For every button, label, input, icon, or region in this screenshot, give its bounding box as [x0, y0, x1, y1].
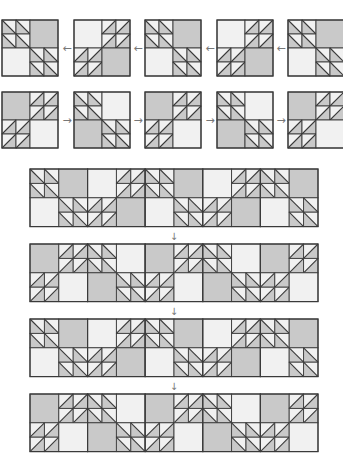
left-arrow-icon: ←	[133, 42, 142, 55]
gray-square	[30, 394, 59, 423]
right-arrow-icon: →	[62, 114, 71, 127]
quilt-block-C	[260, 394, 318, 452]
light-square	[260, 198, 289, 227]
gray-square	[2, 92, 30, 120]
quilt-block-C	[30, 394, 88, 452]
light-square	[232, 244, 261, 273]
quilt-block-A	[30, 169, 88, 227]
quilt-block-B	[203, 319, 261, 377]
gray-square	[145, 92, 173, 120]
quilt-strip-1	[30, 169, 318, 227]
block-row-2: →→→→	[2, 92, 343, 148]
light-square	[245, 92, 273, 120]
light-square	[203, 319, 232, 348]
light-square	[174, 423, 203, 452]
quilt-block-A	[30, 319, 88, 377]
light-square	[74, 20, 102, 48]
quilt-block-D	[203, 244, 261, 302]
gray-square	[232, 198, 261, 227]
gray-square	[74, 120, 102, 148]
quilt-block-C	[2, 92, 58, 148]
left-arrow-icon: ←	[62, 42, 71, 55]
gray-square	[116, 198, 145, 227]
light-square	[288, 48, 316, 76]
quilt-block-C	[145, 244, 203, 302]
quilt-block-B	[88, 169, 146, 227]
down-arrow-icon: ↓	[170, 231, 178, 242]
quilt-strip-4	[30, 394, 318, 452]
gray-square	[245, 48, 273, 76]
light-square	[88, 169, 117, 198]
light-square	[30, 348, 59, 377]
light-square	[30, 120, 58, 148]
left-arrow-icon: ←	[276, 42, 285, 55]
gray-square	[88, 423, 117, 452]
gray-square	[173, 20, 201, 48]
light-square	[173, 120, 201, 148]
quilt-block-C	[145, 394, 203, 452]
gray-square	[316, 20, 343, 48]
left-arrow-icon: ←	[205, 42, 214, 55]
gray-square	[30, 20, 58, 48]
quilt-block-B	[217, 20, 273, 76]
gray-square	[59, 319, 88, 348]
light-square	[145, 48, 173, 76]
gray-square	[217, 120, 245, 148]
quilt-block-A	[2, 20, 58, 76]
quilt-strip-3	[30, 319, 318, 377]
light-square	[174, 273, 203, 302]
light-square	[145, 198, 174, 227]
light-square	[88, 319, 117, 348]
gray-square	[203, 273, 232, 302]
gray-square	[116, 348, 145, 377]
quilt-block-A	[288, 20, 343, 76]
quilt-block-D	[88, 394, 146, 452]
light-square	[2, 48, 30, 76]
gray-square	[260, 244, 289, 273]
quilt-block-D	[74, 92, 130, 148]
quilt-block-C	[260, 244, 318, 302]
gray-square	[145, 244, 174, 273]
light-square	[59, 423, 88, 452]
quilt-block-D	[88, 244, 146, 302]
gray-square	[203, 423, 232, 452]
gray-square	[88, 273, 117, 302]
quilt-block-C	[145, 92, 201, 148]
quilt-block-D	[203, 394, 261, 452]
gray-square	[174, 169, 203, 198]
quilt-block-D	[217, 92, 273, 148]
quilt-diagram: ←←←←→→→→↓↓↓	[0, 0, 343, 469]
gray-square	[145, 394, 174, 423]
light-square	[102, 92, 130, 120]
light-square	[203, 169, 232, 198]
quilt-block-B	[74, 20, 130, 76]
block-row-1: ←←←←	[2, 20, 343, 76]
quilt-block-A	[145, 20, 201, 76]
light-square	[316, 120, 343, 148]
quilt-block-A	[260, 169, 318, 227]
light-square	[116, 394, 145, 423]
gray-square	[288, 92, 316, 120]
light-square	[232, 394, 261, 423]
gray-square	[59, 169, 88, 198]
light-square	[217, 20, 245, 48]
gray-square	[232, 348, 261, 377]
down-arrow-icon: ↓	[170, 381, 178, 392]
light-square	[289, 273, 318, 302]
gray-square	[289, 169, 318, 198]
light-square	[59, 273, 88, 302]
quilt-block-A	[145, 319, 203, 377]
quilt-block-A	[260, 319, 318, 377]
gray-square	[30, 244, 59, 273]
right-arrow-icon: →	[205, 114, 214, 127]
light-square	[116, 244, 145, 273]
quilt-block-C	[288, 92, 343, 148]
right-arrow-icon: →	[133, 114, 142, 127]
right-arrow-icon: →	[276, 114, 285, 127]
gray-square	[260, 394, 289, 423]
light-square	[260, 348, 289, 377]
quilt-block-B	[88, 319, 146, 377]
light-square	[30, 198, 59, 227]
quilt-block-A	[145, 169, 203, 227]
gray-square	[102, 48, 130, 76]
